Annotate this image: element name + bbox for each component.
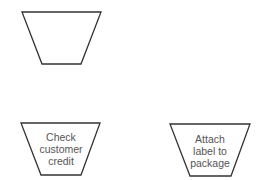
label-line: package (179, 157, 241, 169)
attach-label-label: Attach label to package (179, 133, 241, 169)
label-line: Check (30, 131, 92, 143)
label-line: credit (30, 155, 92, 167)
check-credit-label: Check customer credit (30, 131, 92, 167)
label-line: Attach (179, 133, 241, 145)
label-line: customer (30, 143, 92, 155)
manual-operation-symbol-blank (22, 12, 101, 64)
label-line: label to (179, 145, 241, 157)
